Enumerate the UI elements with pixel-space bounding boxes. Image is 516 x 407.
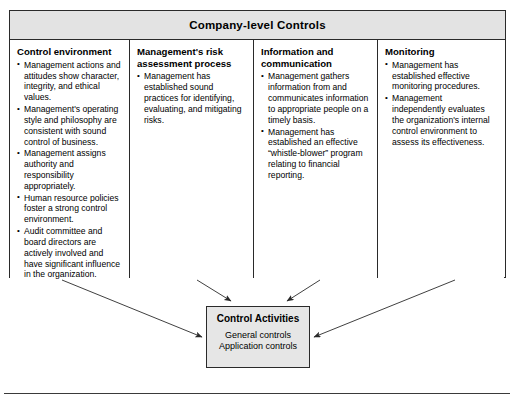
list-item: Management assigns authority and respons… — [17, 148, 123, 191]
bullet-list: Management gathers information from and … — [261, 71, 371, 180]
list-item: Management has established sound practic… — [137, 71, 247, 125]
control-activities-line-general: General controls — [207, 330, 309, 341]
list-item: Management has established an effective … — [261, 127, 371, 181]
matrix-column-monitoring: Monitoring Management has established ef… — [378, 40, 504, 278]
matrix-title: Company-level Controls — [10, 11, 505, 40]
matrix-column-control-environment: Control environment Management actions a… — [10, 40, 130, 278]
arrow-control-environment — [62, 280, 202, 337]
list-item: Human resource policies foster a strong … — [17, 193, 123, 225]
company-level-controls-matrix: Company-level Controls Control environme… — [9, 10, 506, 278]
arrow-monitoring — [314, 280, 455, 337]
footer-divider — [4, 393, 510, 394]
diagram-canvas: Company-level Controls Control environme… — [0, 0, 516, 407]
list-item: Management independently evaluates the o… — [385, 93, 498, 147]
column-heading: Information and communication — [261, 46, 371, 69]
control-activities-title: Control Activities — [207, 313, 309, 325]
bullet-list: Management actions and attitudes show ch… — [17, 60, 123, 281]
list-item: Management has established effective mon… — [385, 60, 498, 92]
column-heading: Control environment — [17, 46, 123, 58]
control-activities-box: Control Activities General controls Appl… — [206, 306, 310, 368]
arrow-information-communication — [287, 280, 320, 301]
matrix-column-information-communication: Information and communication Management… — [254, 40, 378, 278]
list-item: Management gathers information from and … — [261, 71, 371, 125]
column-heading: Monitoring — [385, 46, 498, 58]
control-activities-line-application: Application controls — [207, 341, 309, 352]
list-item: Management's operating style and philoso… — [17, 104, 123, 147]
arrow-risk-assessment — [197, 280, 231, 301]
list-item: Audit committee and board directors are … — [17, 226, 123, 280]
matrix-columns: Control environment Management actions a… — [10, 40, 505, 278]
matrix-column-risk-assessment: Management's risk assessment process Man… — [130, 40, 254, 278]
column-heading: Management's risk assessment process — [137, 46, 247, 69]
bullet-list: Management has established sound practic… — [137, 71, 247, 125]
bullet-list: Management has established effective mon… — [385, 60, 498, 148]
list-item: Management actions and attitudes show ch… — [17, 60, 123, 103]
